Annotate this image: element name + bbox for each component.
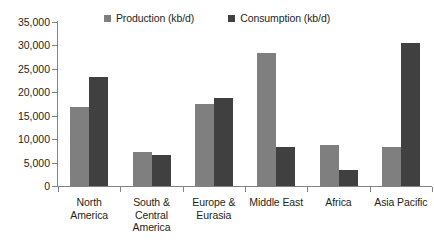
bar-consumption xyxy=(276,147,295,186)
x-axis-tick-mark xyxy=(58,187,59,192)
y-axis-tick-label: 10,000 xyxy=(2,134,50,145)
y-axis-labels: 05,00010,00015,00020,00025,00030,00035,0… xyxy=(0,0,50,245)
x-axis-tick-mark xyxy=(432,187,433,192)
x-axis-tick-mark xyxy=(245,187,246,192)
bar-production xyxy=(195,104,214,186)
legend-swatch-icon xyxy=(228,15,235,22)
bar-consumption xyxy=(214,98,233,186)
x-axis-tick-mark xyxy=(370,187,371,192)
bar-production xyxy=(70,107,89,186)
x-axis-tick-mark xyxy=(120,187,121,192)
y-axis-tick-label: 25,000 xyxy=(2,63,50,74)
x-axis-category-label: Asia Pacific xyxy=(370,196,432,209)
bar-consumption xyxy=(339,170,358,186)
bar-production xyxy=(257,53,276,186)
x-axis-category-label: Europe &Eurasia xyxy=(183,196,245,221)
x-axis-tick-mark xyxy=(183,187,184,192)
bar-consumption xyxy=(89,77,108,186)
legend-swatch-icon xyxy=(104,15,111,22)
y-axis-tick-label: 15,000 xyxy=(2,110,50,121)
y-axis-tick-label: 0 xyxy=(2,181,50,192)
plot-area xyxy=(58,22,432,186)
bar-consumption xyxy=(401,43,420,186)
y-axis-tick-label: 35,000 xyxy=(2,17,50,28)
bar-production xyxy=(133,152,152,186)
y-axis-tick-label: 20,000 xyxy=(2,87,50,98)
bar-consumption xyxy=(152,155,171,186)
bar-production xyxy=(382,147,401,186)
x-axis-category-label: NorthAmerica xyxy=(58,196,120,221)
bar-chart: Production (kb/d)Consumption (kb/d) 05,0… xyxy=(0,0,434,245)
x-axis-category-label: Africa xyxy=(307,196,369,209)
y-axis-tick-label: 5,000 xyxy=(2,157,50,168)
x-axis-category-label: South &CentralAmerica xyxy=(120,196,182,234)
x-axis-tick-mark xyxy=(307,187,308,192)
y-axis-tick-label: 30,000 xyxy=(2,40,50,51)
x-axis-category-label: Middle East xyxy=(245,196,307,209)
bar-production xyxy=(320,145,339,186)
